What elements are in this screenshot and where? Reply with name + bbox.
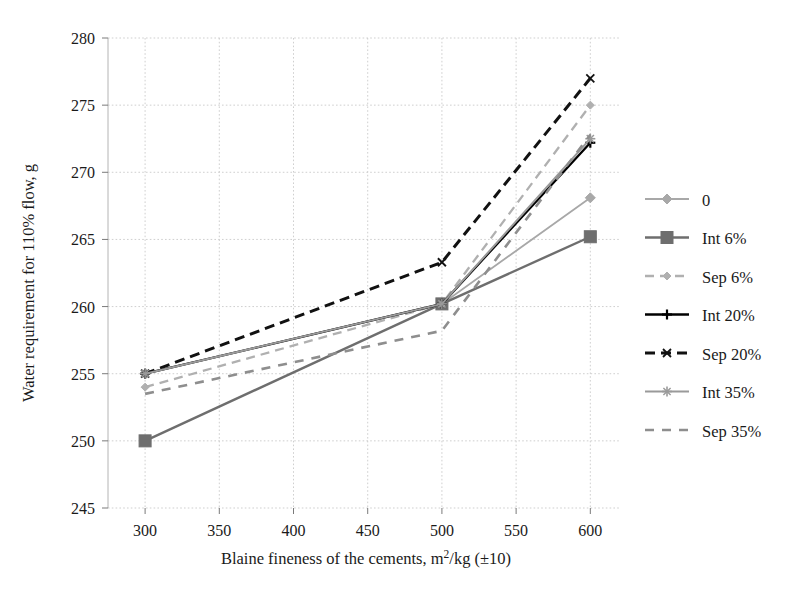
legend-label: Int 20%: [702, 306, 755, 325]
series-marker: [437, 299, 447, 309]
x-tick-label: 550: [504, 522, 528, 539]
x-tick-label: 350: [207, 522, 231, 539]
series-marker: [139, 435, 151, 447]
x-tick-label: 500: [430, 522, 454, 539]
legend-swatch-marker: [662, 387, 672, 397]
chart-background: [0, 0, 791, 599]
chart-figure: 245250255260265270275280 300350400450500…: [0, 0, 791, 599]
y-tick-label: 265: [71, 231, 95, 248]
legend-label: Sep 20%: [702, 345, 761, 364]
y-tick-label: 270: [71, 164, 95, 181]
y-tick-label: 250: [71, 433, 95, 450]
x-axis-title-pre: Blaine fineness of the cements, m: [221, 549, 444, 568]
series-marker: [584, 231, 596, 243]
x-axis-title-post: /kg (±10): [449, 549, 511, 568]
x-axis-title: Blaine fineness of the cements, m2/kg (±…: [221, 548, 511, 568]
series-marker: [140, 369, 150, 379]
legend-label: Int 6%: [702, 229, 747, 248]
legend-label: Sep 35%: [702, 422, 761, 441]
y-axis-title: Water requirement for 110% flow, g: [19, 164, 38, 402]
y-tick-label: 280: [71, 30, 95, 47]
legend-label: Int 35%: [702, 383, 755, 402]
legend-label: 0: [702, 191, 710, 210]
x-tick-label: 450: [356, 522, 380, 539]
x-tick-label: 300: [133, 522, 157, 539]
x-tick-label: 400: [282, 522, 306, 539]
x-tick-label: 600: [578, 522, 602, 539]
y-tick-label: 260: [71, 299, 95, 316]
legend-swatch-marker: [661, 232, 673, 244]
y-tick-label: 245: [71, 500, 95, 517]
y-tick-label: 275: [71, 97, 95, 114]
y-tick-label: 255: [71, 366, 95, 383]
legend-label: Sep 6%: [702, 268, 753, 287]
